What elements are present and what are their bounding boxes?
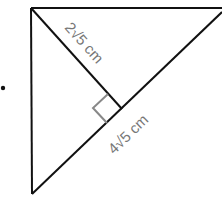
bullet-dot: [1, 86, 5, 90]
triangle-diagram: 2√5 cm 4√5 cm: [0, 0, 222, 201]
right-angle-marker: [93, 94, 108, 123]
altitude-label: 2√5 cm: [62, 19, 107, 67]
left-side: [31, 8, 32, 194]
